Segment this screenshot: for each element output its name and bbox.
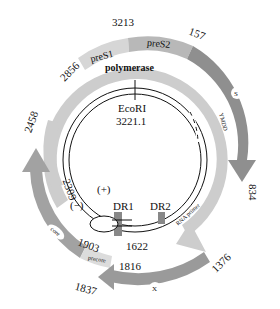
polymerase-label: polymerase xyxy=(105,62,154,73)
x-label: X xyxy=(152,285,157,293)
s-arrowhead xyxy=(228,160,256,182)
ecori-position: 3221.1 xyxy=(116,115,146,127)
pos-834: 834 xyxy=(247,184,259,201)
plus-strand-gap xyxy=(190,112,198,142)
pos-2458: 2458 xyxy=(22,109,41,134)
hbv-genome-diagram: preS1 preS2 polymerase S core precore X … xyxy=(0,0,280,309)
pos-3213: 3213 xyxy=(112,16,135,28)
ecori-label: EcoRI xyxy=(118,102,146,114)
x-arrowhead xyxy=(98,264,114,290)
terminal-loop xyxy=(90,216,118,232)
polymerase-arrowhead xyxy=(176,222,206,252)
pos-1622: 1622 xyxy=(126,240,148,252)
pos-1816: 1816 xyxy=(119,260,142,272)
dr2-label: DR2 xyxy=(150,200,171,212)
s-label: S xyxy=(234,90,238,98)
plus-strand-label: (+) xyxy=(97,183,111,196)
pos-1837: 1837 xyxy=(74,280,99,297)
pos-1376: 1376 xyxy=(209,250,233,274)
dr1-label: DR1 xyxy=(113,200,134,212)
dr2-block xyxy=(158,212,165,224)
pos-2856: 2856 xyxy=(58,59,82,83)
pos-157: 157 xyxy=(187,25,207,42)
minus-strand-label: (−) xyxy=(70,199,84,212)
